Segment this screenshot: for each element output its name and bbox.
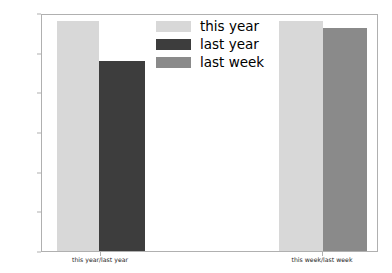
x-tick-label: this week/last week bbox=[292, 256, 353, 263]
legend-item: last week bbox=[156, 56, 264, 69]
bar-last-year bbox=[99, 61, 145, 251]
legend-swatch-icon bbox=[156, 39, 191, 50]
legend-item: last year bbox=[156, 38, 264, 51]
bar-this-year bbox=[57, 21, 99, 251]
legend-swatch-icon bbox=[156, 57, 191, 68]
x-tick-mark bbox=[322, 252, 323, 256]
x-tick-label: this year/last year bbox=[72, 256, 128, 263]
legend-label: this year bbox=[200, 20, 259, 34]
bar-this-year bbox=[279, 21, 323, 251]
y-axis: 0100000200000300000400000500000600000 bbox=[0, 0, 41, 273]
legend-swatch-icon bbox=[156, 21, 191, 32]
chart-legend: this yearlast yearlast week bbox=[152, 17, 268, 72]
legend-label: last year bbox=[200, 38, 259, 52]
x-tick-mark bbox=[100, 252, 101, 256]
legend-item: this year bbox=[156, 20, 264, 33]
bar-chart-figure: 0100000200000300000400000500000600000 th… bbox=[0, 0, 392, 273]
legend-label: last week bbox=[200, 56, 264, 70]
bar-last-week bbox=[323, 28, 367, 251]
